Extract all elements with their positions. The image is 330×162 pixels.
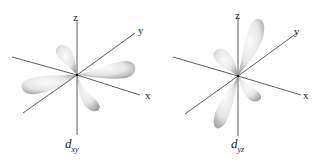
lobe-upper-left <box>56 45 77 75</box>
dyz-x-axis-label: x <box>303 90 309 101</box>
dyz-orbital <box>173 17 301 136</box>
dxy-z-axis-label: z <box>73 12 78 23</box>
dxy-x-axis-label: x <box>145 90 151 101</box>
lobe-lower <box>77 75 100 111</box>
lobe-left <box>22 75 77 94</box>
orbital-diagrams <box>0 0 330 162</box>
lobe-lower <box>214 76 238 128</box>
dyz-z-axis-label: z <box>235 10 240 21</box>
dxy-y-axis-label: y <box>138 25 144 36</box>
dyz-caption-subscript: yz <box>238 145 245 154</box>
lobe-upper-left <box>213 49 238 76</box>
dxy-caption: dxy <box>65 137 79 154</box>
lobe-upper <box>238 19 264 76</box>
dyz-caption: dyz <box>231 137 244 154</box>
dyz-y-axis-label: y <box>294 26 300 37</box>
dxy-caption-subscript: xy <box>72 145 79 154</box>
lobe-right <box>77 61 135 79</box>
dxy-orbital <box>12 20 140 135</box>
